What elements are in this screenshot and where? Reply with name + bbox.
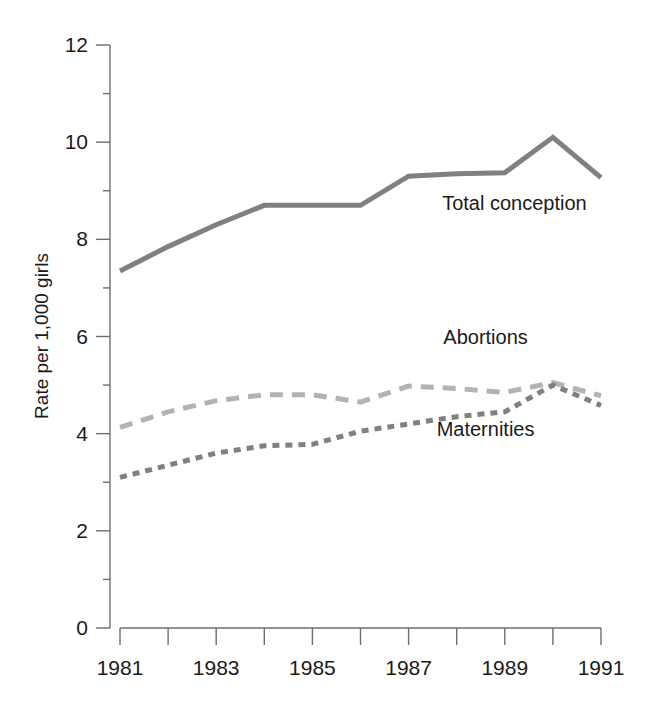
x-tick-label: 1981	[97, 656, 144, 679]
series-annotation: Total conception	[442, 192, 587, 214]
y-tick-label: 12	[65, 33, 88, 56]
y-axis-tick-labels: 024681012	[65, 33, 89, 639]
series-annotations: Total conceptionAbortionsMaternities	[437, 192, 587, 440]
x-tick-label: 1991	[578, 656, 625, 679]
series-annotation: Abortions	[443, 326, 528, 348]
y-tick-label: 6	[76, 325, 88, 348]
y-tick-label: 0	[76, 616, 88, 639]
y-axis-ticks	[96, 45, 110, 628]
y-tick-label: 8	[76, 227, 88, 250]
x-tick-label: 1983	[193, 656, 240, 679]
y-tick-label: 10	[65, 130, 88, 153]
x-axis-tick-labels: 198119831985198719891991	[97, 656, 625, 679]
y-axis-title: Rate per 1,000 girls	[31, 253, 52, 419]
x-tick-label: 1985	[289, 656, 336, 679]
y-tick-label: 2	[76, 519, 88, 542]
x-tick-label: 1989	[481, 656, 528, 679]
line-chart: 024681012 Rate per 1,000 girls 198119831…	[0, 0, 671, 702]
x-axis: 198119831985198719891991	[97, 628, 625, 679]
chart-container: 024681012 Rate per 1,000 girls 198119831…	[0, 0, 671, 702]
y-axis: 024681012 Rate per 1,000 girls	[31, 33, 110, 639]
x-tick-label: 1987	[385, 656, 432, 679]
series-annotation: Maternities	[437, 418, 535, 440]
x-axis-ticks	[120, 628, 601, 645]
y-tick-label: 4	[76, 422, 88, 445]
